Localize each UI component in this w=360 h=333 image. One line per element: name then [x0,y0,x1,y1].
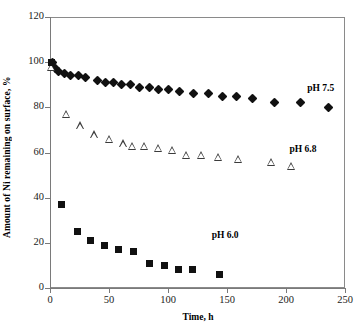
x-tick [50,288,51,293]
x-axis-line [50,288,346,289]
x-tick [168,288,169,293]
x-tick-label: 50 [89,295,129,306]
x-tick-label: 100 [148,295,188,306]
y-tick [45,62,50,63]
y-tick [45,243,50,244]
y-axis-line [50,17,51,289]
x-tick-label: 200 [266,295,306,306]
x-tick [286,288,287,293]
x-tick-label: 0 [30,295,70,306]
series-label-ph75: pH 7.5 [307,83,334,93]
x-tick-label: 150 [207,295,247,306]
series-label-ph68: pH 6.8 [290,144,317,154]
x-axis-title: Time, h [50,312,346,322]
y-tick-label: 0 [4,282,44,293]
y-tick [45,107,50,108]
x-tick-label: 250 [325,295,360,306]
y-tick [45,17,50,18]
chart-figure: 020406080100120050100150200250 pH 7.5pH … [0,0,360,333]
x-tick [227,288,228,293]
y-tick-label: 120 [4,11,44,22]
series-label-ph60: pH 6.0 [212,230,239,240]
y-axis-title: Amount of Ni remaining on surface, % [2,52,16,262]
y-tick [45,198,50,199]
x-tick [345,288,346,293]
x-tick [109,288,110,293]
y-tick [45,153,50,154]
